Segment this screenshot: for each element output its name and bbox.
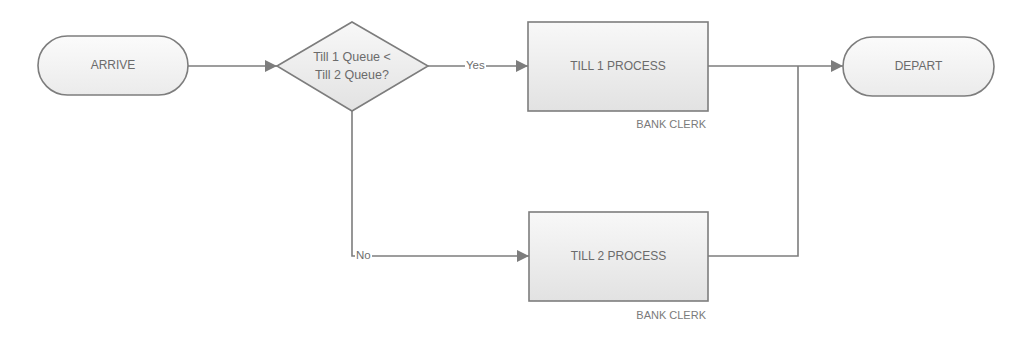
- decision-diamond[interactable]: [277, 22, 428, 111]
- till2-resource-label: BANK CLERK: [588, 309, 706, 321]
- edge-till2-to-depart: [708, 66, 798, 256]
- till1-resource-label: BANK CLERK: [588, 118, 706, 130]
- till1-process-box[interactable]: [528, 22, 708, 111]
- edge-no-to-till2: [352, 111, 529, 256]
- edge-label-yes: Yes: [465, 59, 486, 72]
- flowchart-svg: [0, 0, 1028, 342]
- till2-process-box[interactable]: [529, 212, 708, 301]
- arrive-terminator[interactable]: [38, 36, 188, 95]
- edge-label-no: No: [355, 249, 372, 262]
- depart-terminator[interactable]: [843, 37, 994, 96]
- flowchart-canvas: ARRIVE Till 1 Queue < Till 2 Queue? TILL…: [0, 0, 1028, 342]
